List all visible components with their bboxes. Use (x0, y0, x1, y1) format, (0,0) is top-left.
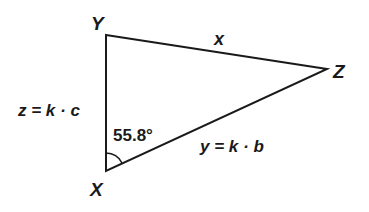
angle-arc-x (106, 153, 122, 163)
vertex-label-x: X (89, 179, 104, 200)
angle-label-x: 55.8° (113, 126, 153, 145)
vertex-label-y: Y (91, 13, 106, 34)
side-label-yz: x (213, 29, 225, 49)
triangle-diagram: Y X Z x z = k · c y = k · b 55.8° (0, 0, 369, 212)
vertex-label-z: Z (332, 61, 346, 82)
triangle-svg: Y X Z x z = k · c y = k · b 55.8° (0, 0, 369, 212)
side-label-xy: z = k · c (17, 101, 80, 120)
side-label-xz: y = k · b (199, 137, 264, 156)
